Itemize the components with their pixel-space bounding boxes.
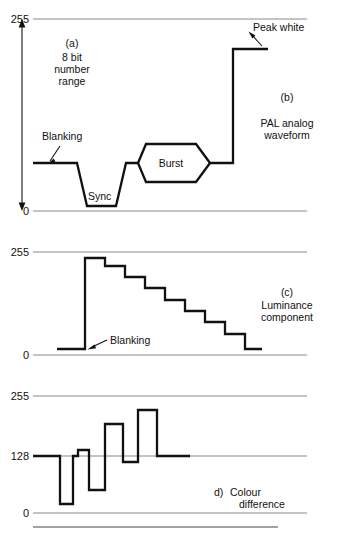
- panel2-bottom-axis-label: 0: [23, 349, 29, 361]
- video-waveform-figure: 255 0 (a) 8 bit number range (b) PAL ana…: [0, 0, 343, 534]
- panel3-mid-axis-label: 128: [11, 450, 29, 462]
- annotation-blanking-panel2: Blanking: [110, 334, 150, 346]
- panel1-caption-line-2: waveform: [263, 129, 310, 141]
- panel1-caption-letter: (b): [281, 91, 294, 103]
- panel2-caption-letter: (c): [281, 286, 293, 298]
- panel1-side-note-line-2: number: [54, 63, 90, 75]
- peak-white-leader: [249, 32, 263, 47]
- panel-luminance-component: 255 0 Blanking (c) Luminance component: [11, 246, 313, 361]
- annotation-sync: Sync: [88, 190, 111, 202]
- blanking-leader-panel2: [88, 340, 108, 350]
- annotation-blanking-panel1: Blanking: [42, 130, 82, 142]
- panel3-caption-line-1: Colour: [230, 486, 261, 498]
- panel1-top-axis-label: 255: [11, 13, 29, 25]
- panel2-caption-line-2: component: [261, 311, 313, 323]
- panel1-side-note-letter: (a): [66, 37, 79, 49]
- annotation-peak-white: Peak white: [253, 21, 305, 33]
- panel2-caption-line-1: Luminance: [261, 299, 313, 311]
- eight-bit-range-arrow: [19, 19, 26, 211]
- panel-pal-analog-waveform: 255 0 (a) 8 bit number range (b) PAL ana…: [11, 13, 314, 217]
- panel1-side-note-line-1: 8 bit: [62, 51, 82, 63]
- panel1-side-note-line-3: range: [59, 75, 86, 87]
- luminance-staircase-trace: [57, 258, 262, 349]
- panel3-caption-line-2: difference: [239, 498, 285, 510]
- panel-colour-difference: 255 128 0 d) Colour difference: [11, 390, 307, 519]
- panel1-caption-line-1: PAL analog: [260, 117, 313, 129]
- panel1-bottom-axis-label: 0: [23, 205, 29, 217]
- panel3-top-axis-label: 255: [11, 390, 29, 402]
- panel3-caption-letter: d): [214, 486, 223, 498]
- panel2-top-axis-label: 255: [11, 246, 29, 258]
- panel3-bottom-axis-label: 0: [23, 507, 29, 519]
- annotation-burst: Burst: [159, 157, 184, 169]
- blanking-leader-panel1: [49, 146, 61, 164]
- colour-difference-trace: [33, 410, 190, 504]
